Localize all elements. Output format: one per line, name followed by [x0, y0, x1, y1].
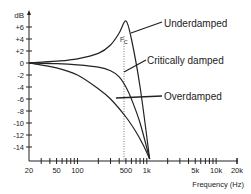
y-tick-labels: +6+4+20-2-4-6-8-10-12-14	[13, 23, 24, 152]
x-axis-title: Frequency (Hz)	[192, 180, 244, 189]
x-tick-label: 10k	[210, 166, 222, 175]
y-tick-label: -2	[17, 71, 24, 80]
x-tick-label: 50	[52, 166, 60, 175]
y-tick-label: -10	[13, 119, 24, 128]
overdamped-label: Overdamped	[164, 91, 222, 102]
y-axis-arrow	[27, 10, 31, 15]
underdamped-label: Underdamped	[164, 18, 227, 29]
x-tick-label: 500	[120, 166, 133, 175]
overdamped-curve	[29, 63, 150, 159]
x-tick-label: 20k	[231, 166, 243, 175]
y-tick-label: +6	[15, 23, 24, 32]
underdamped-curve	[29, 21, 150, 159]
x-tick-label: 1k	[143, 166, 151, 175]
y-tick-label: -6	[17, 95, 24, 104]
critically-damped-curve	[29, 63, 150, 159]
x-tick-labels: 20501005001k5k10k20k	[25, 166, 243, 175]
y-tick-label: +4	[15, 35, 24, 44]
x-tick-label: 20	[25, 166, 33, 175]
y-tick-label: -12	[13, 131, 24, 140]
y-tick-label: -4	[17, 83, 24, 92]
critically-leader	[124, 60, 146, 72]
underdamped-leader	[131, 22, 162, 33]
y-tick-label: 0	[20, 59, 24, 68]
y-tick-label: +2	[15, 47, 24, 56]
y-axis-unit: dB	[14, 11, 24, 20]
overdamped-leader	[116, 96, 162, 98]
y-tick-label: -14	[13, 143, 24, 152]
x-tick-label: 5k	[191, 166, 199, 175]
frequency-response-chart: dB +6+4+20-2-4-6-8-10-12-14 20501005001k…	[0, 0, 251, 194]
x-tick-label: 100	[71, 166, 84, 175]
fc-label: FC	[120, 36, 128, 45]
critically-damped-label: Critically damped	[147, 55, 224, 66]
y-tick-label: -8	[17, 107, 24, 116]
